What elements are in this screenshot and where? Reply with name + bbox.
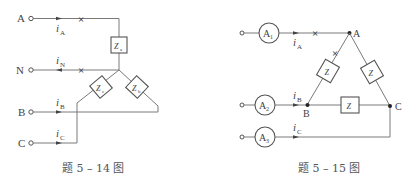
terminal-1 (240, 31, 244, 35)
svg-text:B: B (297, 96, 302, 104)
current-label-ia: i A (293, 36, 302, 51)
svg-text:Z: Z (114, 42, 119, 51)
ammeter-a2: A 2 (255, 95, 275, 115)
current-label-ic: i C (293, 121, 302, 136)
terminal-label-n: N (16, 64, 24, 76)
caption-fig-5-14: 题 5 – 14 图 (62, 162, 124, 175)
svg-text:i: i (293, 89, 296, 101)
svg-text:3: 3 (266, 138, 269, 144)
node-b (306, 103, 310, 107)
impedance-za: Z a (111, 37, 127, 53)
impedance-ac-label: Z (369, 69, 374, 78)
terminal-c (29, 141, 33, 145)
svg-text:i: i (293, 36, 296, 48)
impedance-zc (90, 76, 113, 99)
current-label-ia: i A (56, 22, 65, 37)
current-label-ic: i C (56, 127, 65, 142)
figure-5-15: A 1 × i A A × Z Z A 2 (240, 23, 402, 175)
node-c (388, 104, 392, 108)
svg-text:B: B (60, 103, 65, 111)
svg-text:A: A (297, 43, 302, 51)
caption-fig-5-15: 题 5 – 15 图 (298, 162, 360, 175)
impedance-ab-label: Z (325, 68, 330, 77)
svg-text:i: i (56, 22, 59, 34)
svg-text:Z: Z (96, 84, 101, 93)
terminal-label-c: C (18, 137, 25, 149)
svg-text:C: C (60, 134, 65, 142)
terminal-label-a: A (17, 12, 25, 24)
svg-text:A: A (60, 29, 65, 37)
break-mark-n: × (78, 64, 84, 76)
node-label-a: A (353, 28, 361, 39)
svg-text:Z: Z (347, 102, 352, 111)
terminal-n (29, 68, 33, 72)
terminal-a (29, 16, 33, 20)
svg-text:N: N (60, 61, 65, 69)
svg-text:2: 2 (266, 106, 269, 112)
svg-text:i: i (56, 54, 59, 66)
svg-text:1: 1 (270, 34, 273, 40)
svg-text:Z: Z (132, 84, 137, 93)
terminal-b (29, 110, 33, 114)
ammeter-a1: A 1 (259, 23, 279, 43)
ammeter-a3: A 3 (255, 127, 275, 147)
break-mark-ab: × (332, 47, 338, 59)
current-arrow-a (293, 31, 299, 34)
current-label-in: i N (56, 54, 65, 69)
svg-text:i: i (293, 121, 296, 133)
figure-5-14: A N B C × × i A i N i B (16, 12, 158, 175)
svg-text:C: C (297, 128, 302, 136)
break-mark-a: × (312, 27, 318, 39)
current-arrow-a (56, 17, 62, 20)
terminal-2 (240, 103, 244, 107)
break-mark-a: × (78, 13, 84, 25)
terminal-3 (240, 135, 244, 139)
impedance-bc: Z (341, 97, 359, 113)
node-label-b: B (303, 108, 310, 119)
current-label-ib: i B (293, 89, 302, 104)
svg-text:i: i (56, 127, 59, 139)
current-label-ib: i B (56, 96, 65, 111)
terminal-label-b: B (18, 106, 25, 118)
svg-text:i: i (56, 96, 59, 108)
node-label-c: C (395, 101, 402, 112)
circuit-diagrams: A N B C × × i A i N i B (0, 0, 412, 181)
